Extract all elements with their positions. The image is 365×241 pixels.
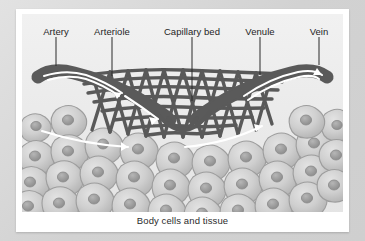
leader-vein bbox=[319, 37, 320, 65]
label-venule: Venule bbox=[245, 26, 274, 37]
leader-capillary-bed bbox=[192, 37, 193, 101]
label-arteriole: Arteriole bbox=[94, 26, 130, 37]
figure-caption: Body cells and tissue bbox=[22, 212, 343, 228]
leader-artery bbox=[56, 37, 57, 66]
page-background: Artery Arteriole Capillary bed Venule Ve… bbox=[0, 0, 365, 241]
capillary-bed-figure: Artery Arteriole Capillary bed Venule Ve… bbox=[22, 14, 343, 218]
label-capillary-bed: Capillary bed bbox=[164, 26, 220, 37]
label-vein: Vein bbox=[310, 26, 329, 37]
figure-graphic bbox=[22, 14, 343, 218]
leader-arteriole bbox=[112, 37, 113, 76]
label-artery: Artery bbox=[43, 26, 69, 37]
illustration-card: Artery Arteriole Capillary bed Venule Ve… bbox=[16, 9, 349, 232]
leader-venule bbox=[260, 37, 261, 75]
